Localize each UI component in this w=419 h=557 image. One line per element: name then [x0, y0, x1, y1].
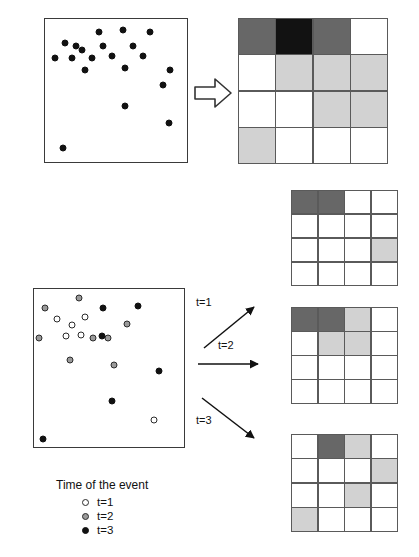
event-point	[53, 316, 60, 323]
raster-cell	[239, 55, 275, 90]
raster-cell	[276, 92, 312, 127]
raster-cell	[319, 484, 344, 507]
event-point	[67, 357, 74, 364]
raster-cell	[345, 380, 370, 403]
event-point	[159, 81, 166, 88]
event-point	[121, 64, 128, 71]
event-point	[61, 40, 68, 47]
raster-cell	[319, 239, 344, 261]
raster-cell	[319, 435, 344, 458]
event-point	[88, 54, 95, 61]
event-point	[110, 361, 117, 368]
legend-item-label: t=3	[97, 524, 113, 536]
raster-cell	[292, 332, 317, 355]
event-point	[81, 67, 88, 74]
raster-cell	[345, 459, 370, 482]
raster-grid-t2	[291, 307, 398, 404]
legend-item: t=2	[56, 509, 148, 523]
point-pattern-timed-events	[33, 288, 185, 448]
raster-cell	[345, 308, 370, 331]
raster-cell	[319, 215, 344, 237]
event-point	[51, 54, 58, 61]
event-point	[76, 295, 83, 302]
raster-cell	[276, 19, 312, 54]
event-point	[98, 333, 105, 340]
raster-cell	[276, 55, 312, 90]
event-point	[124, 320, 131, 327]
raster-cell	[345, 263, 370, 285]
raster-cell	[319, 191, 344, 213]
raster-cell	[372, 435, 397, 458]
legend: Time of the event t=1t=2t=3	[56, 478, 148, 537]
raster-cell	[345, 215, 370, 237]
event-point	[60, 144, 67, 151]
raster-cell	[372, 380, 397, 403]
raster-cell	[239, 19, 275, 54]
raster-cell	[372, 263, 397, 285]
raster-cell	[319, 508, 344, 531]
raster-cell	[351, 128, 387, 163]
raster-cell	[319, 308, 344, 331]
raster-cell	[292, 191, 317, 213]
event-point	[77, 331, 84, 338]
raster-cell	[314, 55, 350, 90]
event-point	[104, 334, 111, 341]
raster-cell	[239, 128, 275, 163]
event-point	[100, 43, 107, 50]
raster-cell	[345, 356, 370, 379]
legend-item-label: t=1	[97, 496, 113, 508]
raster-cell	[351, 19, 387, 54]
arrow-t3-label: t=3	[196, 414, 212, 426]
raster-cell	[292, 308, 317, 331]
raster-cell	[314, 92, 350, 127]
raster-cell	[372, 239, 397, 261]
event-point	[100, 304, 107, 311]
legend-title: Time of the event	[56, 478, 148, 492]
legend-item: t=1	[56, 495, 148, 509]
event-point	[68, 54, 75, 61]
event-point	[109, 398, 116, 405]
legend-items: t=1t=2t=3	[56, 495, 148, 537]
event-point	[68, 322, 75, 329]
event-point	[165, 120, 172, 127]
raster-cell	[239, 92, 275, 127]
event-point	[121, 103, 128, 110]
event-point	[155, 368, 162, 375]
raster-cell	[372, 484, 397, 507]
event-point	[147, 28, 154, 35]
transform-arrow-icon	[193, 76, 233, 110]
raster-cell	[292, 484, 317, 507]
raster-cell	[292, 215, 317, 237]
raster-cell	[372, 215, 397, 237]
event-point	[139, 53, 146, 60]
event-point	[95, 28, 102, 35]
event-point	[108, 53, 115, 60]
arrow-t1-label: t=1	[196, 296, 212, 308]
event-point	[166, 67, 173, 74]
event-point	[134, 303, 141, 310]
raster-cell	[319, 332, 344, 355]
event-point	[120, 27, 127, 34]
event-point	[82, 314, 89, 321]
raster-cell	[292, 239, 317, 261]
raster-cell	[351, 92, 387, 127]
raster-cell	[372, 356, 397, 379]
event-point	[35, 334, 42, 341]
event-point	[151, 417, 158, 424]
legend-marker-icon	[82, 513, 89, 520]
raster-cell	[345, 435, 370, 458]
point-pattern-all-events	[44, 18, 188, 163]
raster-grid-all-events	[238, 18, 388, 164]
raster-grid-t3	[291, 434, 398, 532]
event-point	[62, 333, 69, 340]
raster-cell	[372, 308, 397, 331]
arrow-t2-label: t=2	[218, 339, 234, 351]
raster-cell	[345, 191, 370, 213]
raster-cell	[372, 459, 397, 482]
raster-cell	[345, 484, 370, 507]
raster-cell	[292, 435, 317, 458]
raster-cell	[319, 459, 344, 482]
raster-cell	[319, 380, 344, 403]
raster-cell	[292, 263, 317, 285]
raster-cell	[319, 263, 344, 285]
